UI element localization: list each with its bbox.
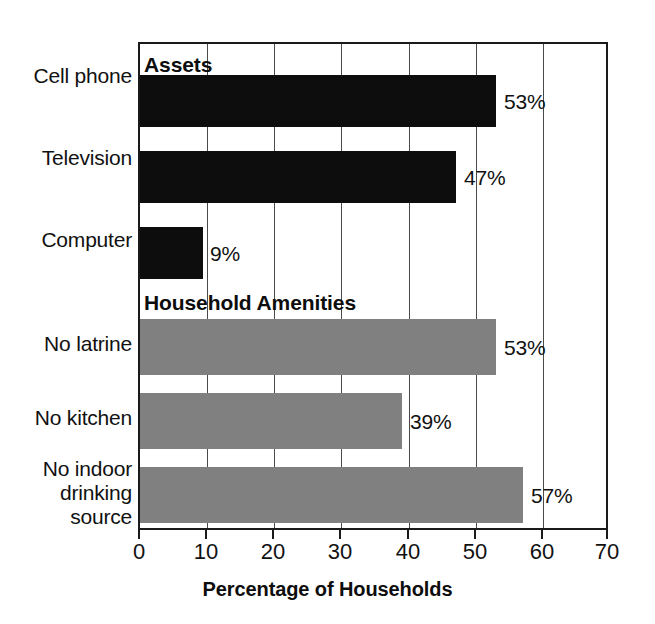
bar-row-no-latrine: 53% xyxy=(140,319,606,375)
plot-area: Assets 53% 47% 9% Household Amenities 53… xyxy=(138,42,608,530)
x-tick-label-50: 50 xyxy=(463,541,487,563)
bar-chart: Cell phone Television Computer No latrin… xyxy=(0,0,655,624)
bar-value-television: 47% xyxy=(464,167,505,188)
category-axis-labels: Cell phone Television Computer No latrin… xyxy=(0,42,132,530)
x-tick-label-20: 20 xyxy=(261,541,285,563)
category-label-cell-phone: Cell phone xyxy=(2,64,132,88)
bar-row-no-indoor-drinking-source: 57% xyxy=(140,467,606,523)
bar-no-indoor-drinking-source xyxy=(140,467,523,523)
bar-value-no-indoor-drinking-source: 57% xyxy=(531,485,572,506)
group-header-household-amenities: Household Amenities xyxy=(144,292,356,313)
bar-no-kitchen xyxy=(140,393,402,449)
bar-value-cell-phone: 53% xyxy=(504,91,545,112)
group-header-assets: Assets xyxy=(144,54,212,75)
bar-row-cell-phone: 53% xyxy=(140,75,606,127)
x-tick-label-60: 60 xyxy=(530,541,554,563)
bar-row-no-kitchen: 39% xyxy=(140,393,606,449)
x-tick-label-0: 0 xyxy=(133,541,145,563)
x-tick-label-70: 70 xyxy=(595,541,619,563)
bar-value-no-latrine: 53% xyxy=(504,337,545,358)
bar-computer xyxy=(140,227,203,279)
x-tick-30 xyxy=(339,530,341,539)
bar-television xyxy=(140,151,456,203)
x-tick-0 xyxy=(138,530,140,539)
x-tick-10 xyxy=(205,530,207,539)
bar-value-computer: 9% xyxy=(210,243,240,264)
category-label-computer: Computer xyxy=(2,228,132,252)
category-label-line: No indoor xyxy=(2,457,132,481)
category-label-no-kitchen: No kitchen xyxy=(2,406,132,430)
category-label-line: drinking xyxy=(2,481,132,505)
bar-row-computer: 9% xyxy=(140,227,606,279)
x-tick-50 xyxy=(474,530,476,539)
x-tick-label-30: 30 xyxy=(328,541,352,563)
category-label-television: Television xyxy=(2,146,132,170)
category-label-no-indoor-drinking-source: No indoor drinking source xyxy=(2,457,132,529)
x-axis-title: Percentage of Households xyxy=(0,578,655,601)
category-label-line: source xyxy=(2,505,132,529)
bar-row-television: 47% xyxy=(140,151,606,203)
bar-value-no-kitchen: 39% xyxy=(410,411,451,432)
x-tick-label-10: 10 xyxy=(194,541,218,563)
x-tick-40 xyxy=(407,530,409,539)
x-tick-20 xyxy=(272,530,274,539)
category-label-no-latrine: No latrine xyxy=(2,332,132,356)
bar-cell-phone xyxy=(140,75,496,127)
x-tick-70 xyxy=(606,530,608,539)
bar-no-latrine xyxy=(140,319,496,375)
x-tick-60 xyxy=(541,530,543,539)
x-tick-label-40: 40 xyxy=(396,541,420,563)
